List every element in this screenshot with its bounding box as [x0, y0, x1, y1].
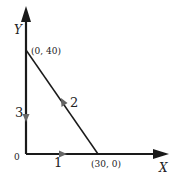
point-label-0-40: (0, 40)	[31, 46, 61, 56]
path-2-label: 2	[70, 95, 78, 110]
path-1-label: 1	[54, 155, 62, 170]
point-label-30-0: (30, 0)	[91, 159, 121, 169]
origin-label: 0	[14, 152, 20, 162]
x-axis-arrow-icon	[153, 149, 169, 159]
path-3-label: 3	[15, 105, 23, 120]
x-axis-label: X	[158, 161, 168, 175]
y-axis-arrow-icon	[21, 6, 31, 22]
y-axis-label: Y	[14, 23, 23, 37]
path-diagram: Y X 0 (0, 40) (30, 0) 1 2 3	[0, 0, 176, 177]
path-3-arrow-icon	[23, 114, 30, 122]
